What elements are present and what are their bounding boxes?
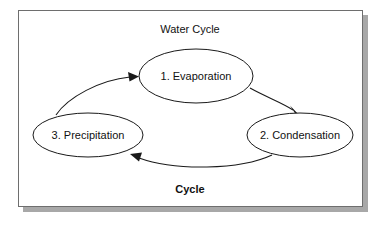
arrowhead-into-evaporation [128, 72, 139, 82]
water-cycle-diagram: Water Cycle 1. Evaporation 2. Condensati… [0, 0, 385, 230]
diagram-canvas: Water Cycle 1. Evaporation 2. Condensati… [0, 0, 385, 230]
diagram-title: Water Cycle [160, 23, 220, 35]
node-label-condensation: 2. Condensation [260, 129, 340, 141]
edge-evaporation-to-condensation [250, 88, 300, 116]
edge-path-evaporation-condensation [250, 88, 293, 110]
edge-condensation-to-precipitation [130, 153, 272, 168]
node-evaporation[interactable]: 1. Evaporation [139, 49, 253, 103]
node-precipitation[interactable]: 3. Precipitation [33, 113, 143, 157]
node-condensation[interactable]: 2. Condensation [247, 113, 353, 157]
arrowhead-into-precipitation [130, 153, 142, 162]
node-label-evaporation: 1. Evaporation [161, 70, 232, 82]
node-label-precipitation: 3. Precipitation [52, 129, 125, 141]
edge-path-precipitation-evaporation [56, 77, 130, 115]
diagram-footer-caption: Cycle [175, 183, 204, 195]
edge-precipitation-to-evaporation [56, 72, 139, 115]
edge-path-condensation-precipitation [139, 155, 272, 167]
